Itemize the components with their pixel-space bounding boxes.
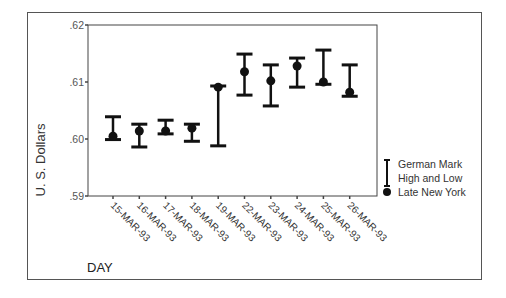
hi-lo-bar xyxy=(289,58,305,87)
hi-lo-bar xyxy=(210,83,226,146)
dot-marker-icon xyxy=(382,186,394,198)
hi-lo-bar xyxy=(105,117,121,141)
x-axis-title: DAY xyxy=(87,260,113,275)
hi-lo-bar xyxy=(315,50,331,86)
legend-entry-german-mark: German Mark xyxy=(381,157,466,171)
hi-lo-bar xyxy=(342,65,358,97)
hi-lo-bar xyxy=(131,124,147,147)
close-marker xyxy=(109,132,118,141)
y-tick-label: .62 xyxy=(69,19,84,31)
close-marker xyxy=(187,124,196,133)
close-marker xyxy=(135,127,144,136)
y-axis-title: U. S. Dollars xyxy=(33,124,48,197)
close-marker xyxy=(345,88,354,97)
legend-label-line3: Late New York xyxy=(398,186,466,198)
legend-label-line1: German Mark xyxy=(398,158,462,170)
close-marker xyxy=(214,83,223,92)
plot-area xyxy=(88,25,377,196)
hi-lo-bar xyxy=(184,124,200,142)
close-marker xyxy=(266,76,275,85)
hi-lo-bar xyxy=(237,54,253,95)
close-marker xyxy=(293,62,302,71)
legend-label-line2: High and Low xyxy=(398,172,462,184)
legend-entry-high-low: High and Low xyxy=(381,171,466,185)
hi-lo-chart: .62.61.60.5915-MAR-9316-MAR-9317-MAR-931… xyxy=(0,0,506,298)
close-marker xyxy=(319,78,328,87)
legend: German Mark High and Low Late New York xyxy=(381,157,466,199)
hi-lo-bar xyxy=(263,65,279,106)
close-marker xyxy=(161,127,170,136)
y-tick-label: .61 xyxy=(69,76,84,88)
hi-lo-bar xyxy=(158,120,174,135)
close-marker xyxy=(240,67,249,76)
y-tick-label: .59 xyxy=(69,190,84,202)
legend-entry-late-new-york: Late New York xyxy=(381,185,466,199)
y-tick-label: .60 xyxy=(69,133,84,145)
